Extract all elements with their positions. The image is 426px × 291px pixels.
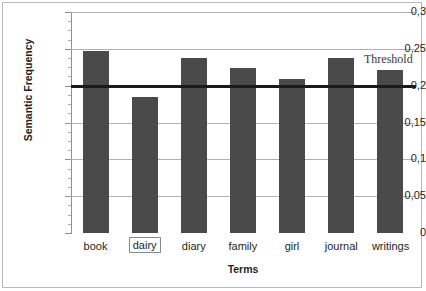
y-axis-tick <box>65 49 71 50</box>
y-axis-title: Semantic Frequency <box>22 2 34 178</box>
y-axis-tick <box>65 123 71 124</box>
y-axis-minor-tick <box>68 205 71 206</box>
x-axis-tick-label: dairy <box>129 237 161 253</box>
x-axis-tick-label: book <box>84 240 108 252</box>
bar <box>279 79 305 233</box>
y-axis-minor-tick <box>68 178 71 179</box>
y-axis-minor-tick <box>68 141 71 142</box>
y-axis-minor-tick <box>68 169 71 170</box>
y-axis-minor-tick <box>68 95 71 96</box>
x-axis-tick-label: writings <box>372 240 409 252</box>
y-axis-tick-label: 0,2 <box>368 80 426 91</box>
y-axis-tick-label: 0,3 <box>368 6 426 17</box>
y-axis-minor-tick <box>68 58 71 59</box>
y-axis-minor-tick <box>68 21 71 22</box>
y-axis-minor-tick <box>68 224 71 225</box>
y-axis-minor-tick <box>68 132 71 133</box>
bar <box>230 68 256 233</box>
y-axis-tick <box>65 12 71 13</box>
y-axis-minor-tick <box>68 30 71 31</box>
threshold-line <box>71 85 416 88</box>
y-axis-tick-label: 0,25 <box>368 43 426 54</box>
y-axis-tick-label: 0 <box>368 227 426 238</box>
bar <box>377 70 403 233</box>
y-axis-tick <box>65 233 71 234</box>
bar <box>83 51 109 233</box>
bar <box>132 97 158 233</box>
y-axis-minor-tick <box>68 187 71 188</box>
y-axis-minor-tick <box>68 113 71 114</box>
x-axis-title: Terms <box>60 263 426 275</box>
y-axis-minor-tick <box>68 76 71 77</box>
plot-area <box>71 12 415 233</box>
x-axis-tick-label: girl <box>285 240 300 252</box>
y-axis-tick-label: 0,05 <box>368 190 426 201</box>
gridline <box>71 49 415 50</box>
y-axis-tick <box>65 86 71 87</box>
x-axis-tick-label: journal <box>325 240 358 252</box>
y-axis-minor-tick <box>68 150 71 151</box>
y-axis-minor-tick <box>68 215 71 216</box>
y-axis-minor-tick <box>68 40 71 41</box>
y-axis-minor-tick <box>68 67 71 68</box>
chart-figure: Semantic Frequency Terms Threshold 00,05… <box>0 0 426 291</box>
gridline <box>71 12 415 13</box>
y-axis-tick-label: 0,1 <box>368 153 426 164</box>
y-axis-tick <box>65 196 71 197</box>
y-axis-minor-tick <box>68 104 71 105</box>
x-axis-tick-label: family <box>229 240 258 252</box>
threshold-label: Threshold <box>364 52 413 67</box>
x-axis-tick-label: diary <box>182 240 206 252</box>
y-axis-tick-label: 0,15 <box>368 117 426 128</box>
y-axis-tick <box>65 159 71 160</box>
